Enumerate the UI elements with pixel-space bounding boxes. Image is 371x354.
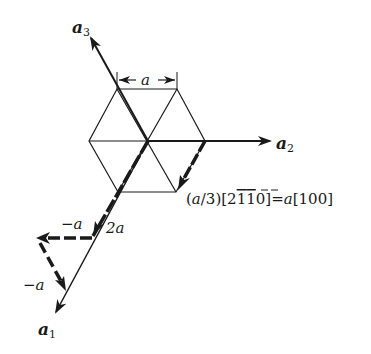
- minus-a-top-label: −a: [61, 215, 83, 233]
- equation-label: (a/3)[2110]=a[100]: [186, 190, 333, 208]
- two-a-label: 2a: [105, 219, 125, 237]
- dimension-label: a: [141, 71, 150, 89]
- minus-a-horizontal-arrowhead: [36, 232, 50, 244]
- a2-label: a2: [276, 133, 294, 155]
- a3-label: a3: [72, 17, 90, 39]
- hexagonal-lattice-vector-diagram: a a3 a2 a1 2a −a −a (a/3)[2110]=a[100]: [0, 0, 371, 354]
- minus-a-left-label: −a: [23, 276, 45, 294]
- a-over-3-vector: [182, 141, 205, 182]
- a1-label: a1: [38, 319, 56, 341]
